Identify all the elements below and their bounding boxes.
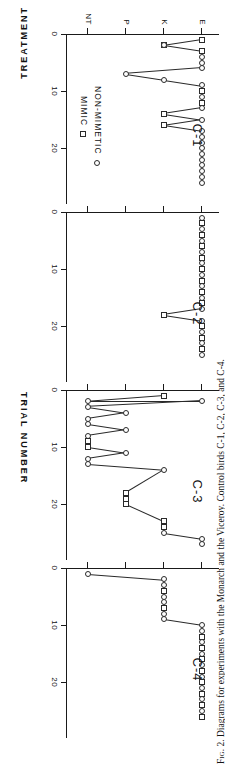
data-point-circle: [85, 571, 91, 577]
x-tick-label-10: 10: [50, 620, 59, 630]
y-tick-e: [201, 562, 202, 569]
x-tick-label-20: 20: [50, 143, 59, 153]
x-tick-label-20: 20: [50, 677, 59, 687]
y-tick-p: [125, 28, 126, 35]
panel-c-3: 01020C-3: [43, 390, 219, 564]
trial-connector: [164, 45, 202, 52]
y-tick-e: [201, 206, 202, 213]
panel-plot-area: 01020C-4: [43, 568, 219, 742]
data-point-circle: [199, 117, 205, 123]
x-tick-label-10: 10: [50, 442, 59, 452]
panel-title-c-2: C-2: [190, 302, 205, 326]
x-tick-label-20: 20: [50, 321, 59, 331]
x-axis-line: [66, 212, 67, 382]
legend-label-mimic: MIMIC: [79, 96, 89, 126]
x-tick-0: [61, 212, 67, 213]
square-marker-icon: [80, 131, 86, 137]
y-tick-p: [125, 206, 126, 213]
data-point-circle: [123, 427, 129, 433]
panel-title-c-4: C-4: [190, 658, 205, 682]
y-axis-title: TREATMENT: [19, 6, 29, 79]
y-axis-label-p: P: [121, 19, 130, 25]
x-tick-label-10: 10: [50, 264, 59, 274]
panel-plot-area: 01020C-3: [43, 390, 219, 564]
trial-connector: [88, 412, 126, 419]
x-axis-title: TRIAL NUMBER: [19, 392, 29, 484]
panel-c-2: 01020C-2: [43, 212, 219, 386]
x-axis-line: [66, 390, 67, 560]
y-axis-label-k: K: [159, 19, 168, 25]
legend-mimic: MIMIC: [79, 96, 89, 137]
x-tick-0: [61, 390, 67, 391]
circle-marker-icon: [94, 160, 100, 166]
y-tick-p: [125, 562, 126, 569]
y-tick-k: [163, 206, 164, 213]
x-tick-label-0: 0: [50, 32, 59, 37]
y-tick-e: [201, 384, 202, 391]
y-tick-nt: [87, 384, 88, 391]
panel-c-4: 01020C-4: [43, 568, 219, 742]
data-point-circle: [161, 467, 167, 473]
data-point-circle: [199, 398, 205, 404]
data-point-circle: [161, 77, 167, 83]
trial-connector: [164, 39, 202, 46]
x-tick-0: [61, 34, 67, 35]
y-tick-k: [163, 28, 164, 35]
x-tick-20: [61, 148, 67, 149]
data-point-circle: [199, 65, 205, 71]
figure-number: Fig. 2.: [216, 739, 225, 764]
data-point-circle: [85, 404, 91, 410]
data-point-circle: [85, 421, 91, 427]
panel-plot-area: 01020C-1NTPKE: [43, 34, 219, 208]
y-axis-line: [67, 212, 219, 213]
y-tick-nt: [87, 562, 88, 569]
y-axis-label-nt: NT: [83, 13, 92, 25]
trial-connector: [88, 464, 164, 471]
trial-connector: [164, 533, 202, 540]
x-tick-20: [61, 504, 67, 505]
y-tick-p: [125, 384, 126, 391]
x-tick-label-10: 10: [50, 86, 59, 96]
data-point-circle: [85, 461, 91, 467]
figure-caption-text: Diagrams for experiments with the Monarc…: [216, 359, 225, 737]
figure-page: 01020C-1NTPKE01020C-201020C-301020C-4 TR…: [0, 0, 225, 776]
data-point-circle: [161, 42, 167, 48]
trial-connector: [88, 429, 126, 436]
data-point-circle: [123, 71, 129, 77]
y-axis-line: [67, 568, 219, 569]
y-tick-nt: [87, 28, 88, 35]
x-tick-label-0: 0: [50, 388, 59, 393]
data-point-square: [85, 444, 91, 450]
trial-connector: [88, 452, 126, 459]
y-axis-line: [67, 390, 219, 391]
x-axis-line: [66, 568, 67, 738]
panel-title-c-3: C-3: [190, 480, 205, 504]
x-axis-line: [66, 34, 67, 204]
x-tick-10: [61, 447, 67, 448]
y-tick-k: [163, 562, 164, 569]
x-tick-0: [61, 568, 67, 569]
x-tick-10: [61, 91, 67, 92]
x-tick-10: [61, 625, 67, 626]
trial-connector: [126, 74, 164, 81]
trial-connector: [88, 574, 164, 581]
y-axis-line: [67, 34, 219, 35]
y-tick-k: [163, 384, 164, 391]
data-point-circle: [123, 450, 129, 456]
data-point-square: [161, 122, 167, 128]
y-tick-nt: [87, 206, 88, 213]
data-point-square: [161, 393, 167, 399]
legend-non-mimetic: NON-MIMETIC: [93, 86, 103, 166]
panel-title-c-1: C-1: [190, 124, 205, 148]
figure-canvas: 01020C-1NTPKE01020C-201020C-301020C-4 TR…: [0, 0, 225, 776]
data-point-circle: [161, 530, 167, 536]
panel-c-1: 01020C-1NTPKE: [43, 34, 219, 208]
data-point-circle: [161, 616, 167, 622]
data-point-circle: [123, 410, 129, 416]
trial-connector: [164, 80, 202, 87]
y-axis-label-e: E: [197, 19, 206, 25]
x-tick-20: [61, 326, 67, 327]
rotated-figure-wrapper: 01020C-1NTPKE01020C-201020C-301020C-4 TR…: [0, 0, 225, 776]
data-point-square: [199, 714, 205, 720]
data-point-square: [161, 111, 167, 117]
